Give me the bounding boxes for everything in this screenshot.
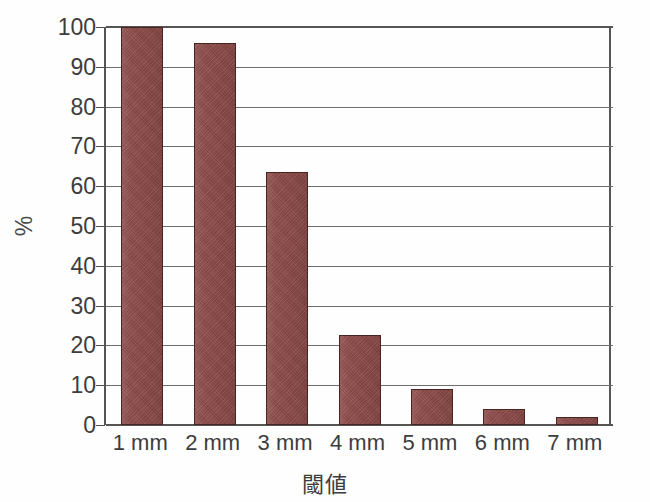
y-axis-tick-mark	[96, 425, 105, 426]
gridline	[106, 67, 613, 68]
x-axis-tick-label: 1 mm	[113, 431, 168, 455]
y-axis-tick-labels: 0102030405060708090100	[40, 0, 96, 502]
y-axis-tick-label: 50	[44, 215, 96, 238]
y-axis-tick-label: 30	[44, 294, 96, 317]
bar	[556, 417, 598, 425]
gridline	[106, 186, 613, 187]
x-axis-tick-label: 6 mm	[475, 431, 530, 455]
y-axis-tick-label: 40	[44, 254, 96, 277]
bar	[483, 409, 525, 425]
y-axis-tick-mark	[96, 67, 105, 68]
gridline	[106, 26, 613, 28]
gridline	[106, 107, 613, 108]
x-axis-tick-label: 3 mm	[258, 431, 313, 455]
x-axis-tick-label: 4 mm	[330, 431, 385, 455]
y-axis-tick-mark	[96, 345, 105, 346]
y-axis-tick-mark	[96, 306, 105, 307]
y-axis-tick-mark	[96, 266, 105, 267]
y-axis-tick-mark	[96, 385, 105, 386]
x-axis-label: 閾値	[0, 466, 650, 498]
bar	[339, 335, 381, 425]
plot-area	[104, 27, 611, 425]
y-axis-tick-label: 70	[44, 135, 96, 158]
x-axis-tick-labels: 1 mm2 mm3 mm4 mm5 mm6 mm7 mm	[104, 431, 611, 461]
y-axis-tick-label: 80	[44, 95, 96, 118]
y-axis-tick-mark	[96, 146, 105, 147]
bar	[194, 43, 236, 425]
x-axis-tick-label: 2 mm	[185, 431, 240, 455]
y-axis-tick-label: 100	[44, 16, 96, 39]
gridline	[106, 306, 613, 307]
x-axis-tick-label: 7 mm	[547, 431, 602, 455]
bar	[121, 27, 163, 425]
bar-chart-figure: % 0102030405060708090100 1 mm2 mm3 mm4 m…	[0, 0, 650, 502]
bar	[266, 172, 308, 425]
y-axis-tick-label: 10	[44, 374, 96, 397]
y-axis-tick-mark	[96, 186, 105, 187]
bar	[411, 389, 453, 425]
y-axis-tick-label: 20	[44, 334, 96, 357]
x-axis-tick-label: 5 mm	[402, 431, 457, 455]
y-axis-tick-mark	[96, 226, 105, 227]
y-axis-tick-label: 0	[44, 414, 96, 437]
gridline	[106, 226, 613, 227]
y-axis-tick-mark	[96, 107, 105, 108]
gridline	[106, 146, 613, 147]
y-axis-tick-mark	[96, 27, 105, 28]
gridline	[106, 266, 613, 267]
y-axis-tick-label: 60	[44, 175, 96, 198]
y-axis-tick-label: 90	[44, 55, 96, 78]
